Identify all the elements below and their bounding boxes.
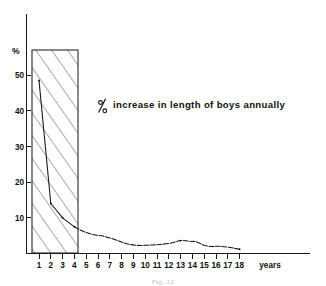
x-tick-label-4: 4 xyxy=(72,261,77,270)
x-tick-label-15: 15 xyxy=(200,261,210,270)
y-tick-label-10: 10 xyxy=(15,214,25,223)
x-tick-label-9: 9 xyxy=(131,261,136,270)
y-tick-label-40: 40 xyxy=(15,107,25,116)
x-tick-label-11: 11 xyxy=(153,261,162,270)
data-point-year-3 xyxy=(62,217,64,219)
data-curve-childhood xyxy=(74,227,239,249)
x-tick-label-6: 6 xyxy=(96,261,101,270)
x-tick-label-18: 18 xyxy=(235,261,245,270)
y-axis-unit-label: % xyxy=(12,46,20,56)
data-point-year-18 xyxy=(239,248,241,250)
y-tick-label-50: 50 xyxy=(15,71,25,80)
x-tick-label-1: 1 xyxy=(37,261,42,270)
y-tick-marks xyxy=(27,75,32,218)
legend-percent-icon xyxy=(99,99,107,113)
x-tick-label-5: 5 xyxy=(84,261,89,270)
x-tick-label-14: 14 xyxy=(188,261,198,270)
x-tick-label-2: 2 xyxy=(49,261,54,270)
y-tick-label-30: 30 xyxy=(15,143,25,152)
figure-caption: Fig. 12 xyxy=(0,278,326,286)
legend-label: increase in length of boys annually xyxy=(113,99,285,110)
x-tick-label-3: 3 xyxy=(60,261,65,270)
x-tick-label-10: 10 xyxy=(141,261,151,270)
y-tick-label-20: 20 xyxy=(15,178,25,187)
x-tick-label-8: 8 xyxy=(119,261,124,270)
y-axis-unit-glyph: % xyxy=(12,46,20,56)
x-tick-label-17: 17 xyxy=(223,261,233,270)
x-tick-label-7: 7 xyxy=(108,261,113,270)
data-point-year-13 xyxy=(180,240,182,242)
x-tick-label-16: 16 xyxy=(211,261,221,270)
x-tick-label-13: 13 xyxy=(176,261,186,270)
x-axis-title: years xyxy=(259,261,281,270)
data-point-year-4 xyxy=(73,226,75,228)
x-tick-label-12: 12 xyxy=(164,261,174,270)
x-tick-marks xyxy=(39,254,240,259)
data-point-year-2 xyxy=(50,203,52,205)
data-point-year-1 xyxy=(38,79,40,81)
